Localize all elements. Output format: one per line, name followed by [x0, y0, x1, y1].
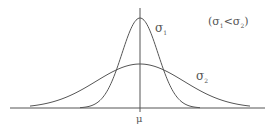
label-mu: μ [136, 114, 143, 124]
condition-label: (σ1<σ2) [208, 16, 249, 29]
label-sigma1: σ1 [155, 22, 167, 36]
label-sigma2: σ2 [196, 70, 208, 84]
